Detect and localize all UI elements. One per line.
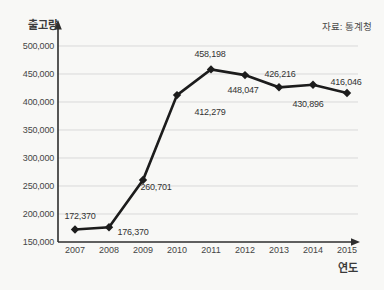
data-point-marker: [275, 83, 283, 91]
shipment-line-chart: 자료: 통계청 출고량 연도 500,000 450,000 400,000 3…: [0, 0, 384, 290]
data-point-label: 430,896: [292, 99, 323, 109]
y-tick-label: 400,000: [12, 97, 54, 107]
data-point-label: 260,701: [140, 182, 171, 192]
x-tick-label: 2011: [201, 245, 220, 255]
data-line: [75, 69, 347, 229]
y-tick-label: 250,000: [12, 181, 54, 191]
data-point-marker: [309, 80, 317, 88]
y-tick-label: 450,000: [12, 69, 54, 79]
data-point-label: 426,216: [264, 69, 295, 79]
y-tick-label: 300,000: [12, 153, 54, 163]
y-axis-title: 출고량: [28, 16, 58, 32]
data-point-label: 176,370: [117, 227, 148, 237]
y-tick-label: 150,000: [12, 237, 54, 247]
x-tick-label: 2010: [167, 245, 187, 255]
x-axis-title: 연도: [338, 259, 358, 275]
x-tick-label: 2007: [65, 245, 85, 255]
x-tick-label: 2014: [303, 245, 323, 255]
x-tick-label: 2012: [235, 245, 255, 255]
x-tick-label: 2008: [99, 245, 119, 255]
data-point-marker: [241, 71, 249, 79]
data-point-label: 172,370: [64, 211, 95, 221]
y-tick-label: 350,000: [12, 125, 54, 135]
data-point-label: 416,046: [330, 77, 361, 87]
data-point-label: 448,047: [227, 85, 258, 95]
chart-plot-area: [0, 0, 384, 290]
data-point-marker: [343, 89, 351, 97]
data-point-label: 412,279: [194, 107, 225, 117]
x-tick-label: 2013: [269, 245, 289, 255]
x-tick-label: 2015: [337, 245, 357, 255]
data-point-marker: [71, 225, 79, 233]
y-tick-label: 500,000: [12, 41, 54, 51]
source-note: 자료: 통계청: [322, 19, 372, 33]
data-point-label: 458,198: [194, 49, 225, 59]
y-tick-label: 200,000: [12, 209, 54, 219]
x-tick-label: 2009: [133, 245, 153, 255]
